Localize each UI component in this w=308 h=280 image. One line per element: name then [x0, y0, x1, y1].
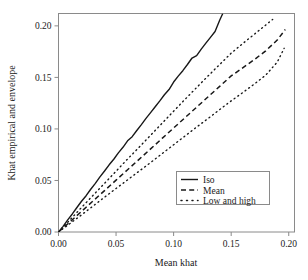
x-tick-label-0: 0.00 [50, 239, 67, 249]
x-tick-label-4: 0.20 [280, 239, 297, 249]
y-tick-label-0: 0.00 [35, 227, 52, 237]
x-tick-label-1: 0.05 [108, 239, 125, 249]
legend-label-iso: Iso [203, 175, 215, 185]
legend-label-low-and-high: Low and high [203, 196, 256, 206]
x-tick-label-2: 0.10 [165, 239, 182, 249]
y-tick-label-1: 0.05 [35, 176, 52, 186]
x-axis-title: Mean khat [155, 257, 198, 268]
y-tick-label-3: 0.15 [35, 73, 52, 83]
chart-legend: Iso Mean Low and high [177, 172, 270, 207]
chart-background [0, 0, 308, 280]
chart-container: 0.000.050.100.150.20 0.000.050.100.150.2… [0, 0, 308, 280]
khat-envelope-chart: 0.000.050.100.150.20 0.000.050.100.150.2… [0, 0, 308, 280]
y-tick-label-2: 0.10 [35, 124, 52, 134]
y-axis-title: Khat empirical and envelope [6, 65, 17, 181]
legend-label-mean: Mean [203, 186, 225, 196]
y-tick-label-4: 0.20 [35, 21, 52, 31]
x-tick-label-3: 0.15 [223, 239, 240, 249]
